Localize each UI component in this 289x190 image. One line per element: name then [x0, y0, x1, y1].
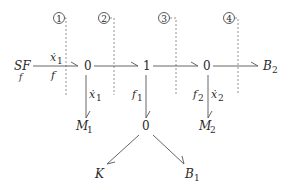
bond-0-to-b1 — [153, 135, 184, 164]
svg-text:ẋ: ẋ — [50, 51, 57, 64]
svg-text:2: 2 — [218, 93, 224, 103]
node-junction-1: 1 — [143, 59, 151, 73]
svg-text:1: 1 — [57, 56, 63, 66]
label-m2-effort: f 2 — [192, 88, 204, 103]
svg-text:2: 2 — [210, 125, 216, 135]
svg-text:1: 1 — [96, 93, 102, 103]
node-b2: B 2 — [262, 59, 278, 75]
label-source-flow: ẋ 1 — [50, 51, 63, 66]
bond-graph-diagram: 1 2 3 4 SF f 0 1 0 B 2 M 1 0 M 2 K B 1 — [0, 0, 289, 190]
label-m2-flow: ẋ 2 — [211, 88, 224, 103]
svg-text:1: 1 — [137, 93, 143, 103]
label-b-effort: f 1 — [131, 88, 143, 103]
node-source-sf: SF f — [14, 59, 31, 82]
bond-1-to-0-lower — [146, 75, 150, 118]
bond-0-to-1 — [94, 62, 138, 66]
node-m2: M 2 — [198, 119, 216, 135]
svg-text:B: B — [184, 167, 194, 181]
node-junction-0-a: 0 — [84, 59, 92, 73]
svg-text:3: 3 — [161, 14, 167, 24]
svg-text:B: B — [262, 59, 272, 73]
bond-1-to-0 — [153, 62, 198, 66]
svg-text:1: 1 — [194, 173, 200, 183]
node-junction-0-b: 0 — [203, 59, 211, 73]
svg-text:SF: SF — [14, 59, 31, 73]
label-m1-flow: ẋ 1 — [89, 88, 102, 103]
node-b1: B 1 — [184, 167, 200, 183]
section-marker-3: 3 — [159, 13, 177, 96]
label-source-effort: f — [50, 69, 57, 82]
svg-text:1: 1 — [56, 14, 62, 24]
svg-text:2: 2 — [272, 65, 278, 75]
node-k: K — [94, 167, 105, 181]
svg-text:ẋ: ẋ — [211, 88, 218, 101]
svg-text:2: 2 — [198, 93, 204, 103]
svg-text:ẋ: ẋ — [89, 88, 96, 101]
svg-text:1: 1 — [87, 125, 93, 135]
svg-text:2: 2 — [101, 14, 107, 24]
bond-0-to-k — [107, 135, 139, 164]
section-marker-2: 2 — [99, 13, 115, 96]
node-m1: M 1 — [75, 119, 93, 135]
svg-text:f: f — [18, 72, 24, 82]
svg-text:4: 4 — [226, 14, 232, 24]
node-junction-0-c: 0 — [142, 119, 150, 133]
bond-0-to-b2 — [213, 62, 258, 66]
section-marker-4: 4 — [224, 13, 239, 96]
